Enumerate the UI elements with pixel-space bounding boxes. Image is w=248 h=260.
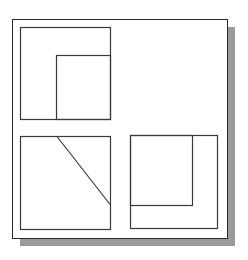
bottom-right-outer-square: [131, 136, 218, 229]
panel-bottom-right: [131, 136, 218, 229]
panel-bottom-left: [21, 137, 111, 230]
figure-canvas: [0, 0, 248, 260]
panel-top-left: [21, 28, 111, 120]
top-left-outer-square: [21, 28, 111, 120]
top-left-inner-square: [57, 56, 111, 120]
bottom-left-diagonal: [57, 137, 111, 206]
bottom-right-inner-square: [131, 136, 193, 206]
bottom-left-outer-square: [21, 137, 111, 230]
